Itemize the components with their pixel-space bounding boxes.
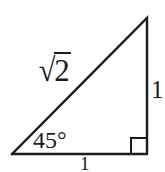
radical-sign-icon: √	[39, 54, 55, 87]
geometry-figure: √2 45° 1 1	[0, 0, 165, 172]
angle-measure-label: 45°	[33, 128, 67, 152]
radicand-value: 2	[54, 52, 71, 86]
vertical-leg-length-label: 1	[151, 77, 164, 102]
base-leg-length-label: 1	[80, 154, 90, 172]
right-angle-marker-icon	[131, 138, 147, 154]
hypotenuse-length-label: √2	[38, 52, 71, 87]
triangle-drawing	[0, 0, 165, 172]
